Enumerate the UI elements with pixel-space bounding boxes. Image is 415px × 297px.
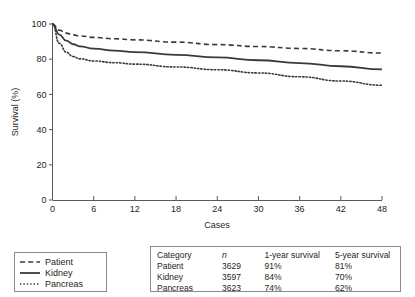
legend-swatch-dotted-icon [20,279,40,289]
y-axis-title: Survival (%) [10,88,20,137]
x-tick-label: 12 [130,204,140,214]
x-axis-ticks: 0612182430364248 [50,196,387,214]
y-tick-label: 0 [41,195,46,205]
table-cell: 3597 [222,271,265,282]
legend-swatch-solid-icon [20,268,40,278]
y-axis-ticks: 020406080100 [31,19,52,205]
table-cell: Pancreas [151,283,222,294]
table-row: Patient362991%81% [151,260,400,271]
x-tick-label: 18 [171,204,181,214]
axes [53,24,383,201]
table-header-1yr: 1-year survival [265,249,335,260]
x-tick-label: 42 [336,204,346,214]
series-line-pancreas [53,24,383,85]
table-cell: 62% [335,283,400,294]
table-cell: 70% [335,271,400,282]
chart-svg: 020406080100 0612182430364248 Cases Surv… [0,0,415,232]
table-cell: Patient [151,260,222,271]
survival-stats-table: Category n 1-year survival 5-year surviv… [150,246,401,292]
x-tick-label: 48 [377,204,387,214]
legend-swatch-dashed-icon [20,257,40,267]
x-tick-label: 6 [91,204,96,214]
y-tick-label: 80 [36,54,46,64]
table-cell: 3629 [222,260,265,271]
y-tick-label: 20 [36,160,46,170]
table-header-category: Category [151,249,222,260]
table-header-row: Category n 1-year survival 5-year surviv… [151,249,400,260]
x-axis-title: Cases [204,220,230,230]
chart-legend: Patient Kidney Pancreas [14,252,107,292]
figure-root: 020406080100 0612182430364248 Cases Surv… [0,0,415,297]
y-tick-label: 40 [36,125,46,135]
legend-label-kidney: Kidney [45,268,73,278]
table-header-n: n [222,249,265,260]
series-lines [53,24,383,85]
table-cell: Kidney [151,271,222,282]
y-tick-label: 60 [36,90,46,100]
series-line-kidney [53,24,383,69]
table-row: Kidney359784%70% [151,271,400,282]
stats-table: Category n 1-year survival 5-year surviv… [151,249,400,294]
legend-item: Pancreas [20,278,101,289]
table-cell: 81% [335,260,400,271]
table-row: Pancreas362374%62% [151,283,400,294]
x-tick-label: 0 [50,204,55,214]
legend-label-pancreas: Pancreas [45,279,83,289]
x-tick-label: 36 [295,204,305,214]
table-cell: 91% [265,260,335,271]
table-cell: 84% [265,271,335,282]
x-tick-label: 30 [253,204,263,214]
legend-item: Kidney [20,267,101,278]
survival-chart: 020406080100 0612182430364248 Cases Surv… [0,0,415,232]
table-cell: 3623 [222,283,265,294]
table-cell: 74% [265,283,335,294]
x-tick-label: 24 [212,204,222,214]
legend-item: Patient [20,256,101,267]
table-header-5yr: 5-year survival [335,249,400,260]
y-tick-label: 100 [31,19,46,29]
legend-label-patient: Patient [45,257,73,267]
